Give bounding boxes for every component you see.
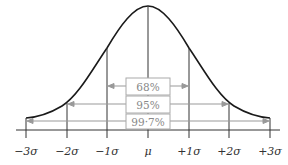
axis-label-plus2: +2σ <box>217 145 241 158</box>
axis-label-minus1: −1σ <box>95 145 119 158</box>
axis-label-mu: μ <box>144 145 151 158</box>
axis-label-minus2: −2σ <box>55 145 79 158</box>
label-95: 95% <box>136 99 159 111</box>
axis-label-plus3: +3σ <box>258 145 282 158</box>
axis-labels: −3σ −2σ −1σ μ +1σ +2σ +3σ <box>14 145 282 158</box>
interval-boxes: 68% 95% 99·7% <box>126 78 170 129</box>
label-997: 99·7% <box>131 116 164 128</box>
label-68: 68% <box>136 81 159 93</box>
axis-label-plus1: +1σ <box>177 145 201 158</box>
normal-distribution-diagram: 68% 95% 99·7% −3σ −2σ −1σ μ +1σ +2σ +3σ <box>0 0 288 165</box>
axis-label-minus3: −3σ <box>14 145 38 158</box>
